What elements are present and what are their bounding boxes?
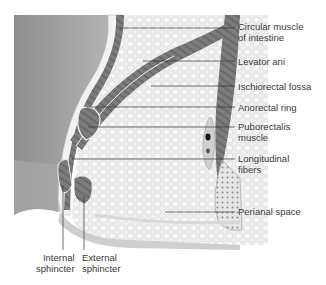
anorectal-anatomy-diagram: Circular muscle of intestine Levator ani… [0, 0, 326, 285]
label-puborectalis-muscle: Puborectalis muscle [238, 121, 290, 143]
label-perianal-space: Perianal space [238, 206, 301, 217]
label-ischiorectal-fossa: Ischiorectal fossa [238, 81, 311, 92]
label-internal-sphincter: Internal sphincter [36, 252, 75, 274]
label-external-sphincter: External sphincter [82, 252, 121, 274]
label-levator-ani: Levator ani [238, 56, 285, 67]
label-longitudinal-fibers: Longitudinal fibers [238, 153, 289, 175]
label-anorectal-ring: Anorectal ring [238, 102, 297, 113]
label-circular-muscle: Circular muscle of intestine [238, 21, 303, 43]
